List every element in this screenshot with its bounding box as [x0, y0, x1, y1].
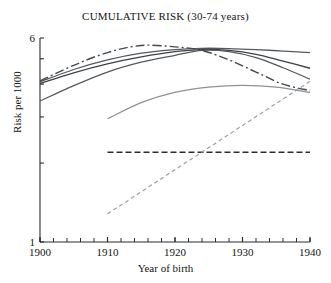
- series-curve-5-solid-light-late-start: [108, 85, 311, 119]
- axes: [40, 38, 310, 242]
- series-line-7-dashed-rising: [108, 81, 311, 214]
- svg-text:1930: 1930: [232, 246, 255, 258]
- data-series-group: [40, 45, 310, 214]
- svg-text:6: 6: [30, 32, 36, 44]
- plot-area: 1619001910192019301940: [0, 0, 331, 283]
- svg-text:1920: 1920: [164, 246, 187, 258]
- series-curve-1-solid-dark-upper: [40, 48, 310, 82]
- svg-text:1900: 1900: [29, 246, 52, 258]
- chart-figure: CUMULATIVE RISK (30-74 years) Risk per 1…: [0, 0, 331, 283]
- svg-text:1910: 1910: [97, 246, 120, 258]
- svg-text:1940: 1940: [299, 246, 322, 258]
